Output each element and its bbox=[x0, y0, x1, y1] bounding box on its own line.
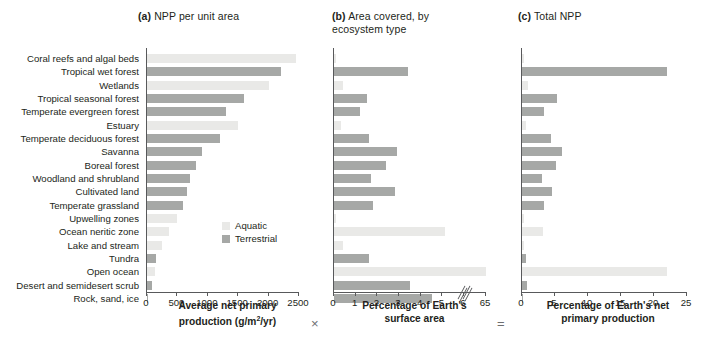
bar bbox=[334, 241, 343, 250]
bar bbox=[147, 94, 244, 103]
category-label: Savanna bbox=[101, 145, 139, 158]
legend-label-aquatic: Aquatic bbox=[235, 219, 267, 232]
x-tick bbox=[587, 292, 588, 296]
panel-b-axis-line1: Percentage of Earth's bbox=[362, 300, 466, 311]
panel-b-title-text: Area covered, by ecosystem type bbox=[332, 10, 429, 35]
panel-a-tag: (a) bbox=[138, 10, 151, 22]
category-label: Woodland and shrubland bbox=[32, 172, 139, 185]
bar bbox=[334, 107, 360, 116]
bar bbox=[522, 241, 524, 250]
bar bbox=[147, 267, 155, 276]
category-label: Rock, sand, ice bbox=[73, 292, 139, 305]
x-tick bbox=[441, 292, 442, 296]
bar bbox=[522, 254, 526, 263]
panel-c-tag: (c) bbox=[518, 10, 531, 22]
legend-label-terrestrial: Terrestrial bbox=[235, 232, 277, 245]
bar bbox=[522, 121, 526, 130]
equals-operator: = bbox=[497, 316, 505, 331]
bar bbox=[522, 147, 562, 156]
bar bbox=[334, 174, 371, 183]
npp-figure: (a) NPP per unit area (b) Area covered, … bbox=[0, 0, 715, 346]
category-label: Temperate grassland bbox=[49, 199, 139, 212]
x-tick bbox=[207, 292, 208, 296]
bar bbox=[147, 174, 190, 183]
panel-a-axis-line2: production (g/m bbox=[179, 316, 257, 327]
bar bbox=[147, 241, 162, 250]
bar bbox=[522, 107, 544, 116]
panel-c-plot: 0510152025 bbox=[521, 52, 686, 292]
x-tick bbox=[176, 292, 177, 296]
panel-c-axis-line1: Percentage of Earth's net bbox=[547, 300, 669, 311]
bar bbox=[334, 134, 369, 143]
panel-a-axis-title: Average net primary production (g/m2/yr) bbox=[150, 300, 305, 328]
category-label: Temperate evergreen forest bbox=[21, 105, 139, 118]
category-label: Temperate deciduous forest bbox=[21, 132, 139, 145]
bar bbox=[334, 214, 336, 223]
bar bbox=[147, 201, 183, 210]
bar bbox=[147, 227, 169, 236]
panel-b-plot: 012345665 bbox=[333, 52, 485, 292]
bar bbox=[522, 187, 552, 196]
panel-c-axis-title: Percentage of Earth's net primary produc… bbox=[523, 300, 693, 325]
bar bbox=[522, 134, 551, 143]
panel-c-x-axis bbox=[521, 292, 686, 293]
x-tick bbox=[355, 292, 356, 296]
bar bbox=[147, 81, 269, 90]
bar bbox=[334, 187, 395, 196]
x-tick bbox=[554, 292, 555, 296]
category-label: Open ocean bbox=[87, 265, 139, 278]
bar bbox=[522, 174, 542, 183]
x-tick bbox=[146, 292, 147, 296]
panel-b-axis-line2: surface area bbox=[384, 313, 444, 324]
x-tick bbox=[653, 292, 654, 296]
panel-b-title: (b) Area covered, by ecosystem type bbox=[332, 10, 482, 35]
category-label: Boreal forest bbox=[85, 159, 139, 172]
bar bbox=[334, 121, 341, 130]
panel-a-axis-line3: /yr) bbox=[260, 316, 276, 327]
panel-a-axis-line1: Average net primary bbox=[178, 300, 276, 311]
x-tick bbox=[485, 292, 486, 296]
category-label: Coral reefs and algal beds bbox=[27, 52, 139, 65]
legend-swatch-aquatic-icon bbox=[222, 222, 230, 230]
bar bbox=[334, 227, 445, 236]
bar bbox=[334, 161, 386, 170]
category-label: Estuary bbox=[106, 119, 139, 132]
legend-swatch-terrestrial-icon bbox=[222, 235, 230, 243]
x-tick bbox=[376, 292, 377, 296]
panel-a-plot: 05001000150020002500 bbox=[146, 52, 298, 292]
bar bbox=[522, 267, 667, 276]
category-label: Ocean neritic zone bbox=[59, 225, 139, 238]
bar bbox=[334, 267, 486, 276]
panel-c-title-text: Total NPP bbox=[534, 10, 582, 22]
x-tick bbox=[686, 292, 687, 296]
bar bbox=[147, 187, 187, 196]
bar bbox=[334, 201, 373, 210]
legend-item-terrestrial: Terrestrial bbox=[222, 232, 277, 245]
bar bbox=[334, 94, 367, 103]
x-tick bbox=[333, 292, 334, 296]
x-tick bbox=[521, 292, 522, 296]
category-label: Desert and semidesert scrub bbox=[16, 279, 139, 292]
panel-b-xaxis-break-icon bbox=[459, 286, 469, 299]
bar bbox=[522, 94, 557, 103]
panel-a-x-axis bbox=[146, 292, 298, 293]
bar bbox=[522, 54, 524, 63]
bar bbox=[522, 214, 524, 223]
category-label: Cultivated land bbox=[76, 185, 139, 198]
multiply-operator: × bbox=[311, 316, 319, 331]
x-tick bbox=[298, 292, 299, 296]
bar bbox=[334, 147, 397, 156]
x-tick bbox=[620, 292, 621, 296]
bar bbox=[334, 54, 336, 63]
category-label: Wetlands bbox=[99, 79, 139, 92]
panel-c-axis-line2: primary production bbox=[561, 313, 654, 324]
bar bbox=[147, 54, 296, 63]
category-label: Upwelling zones bbox=[69, 212, 139, 225]
panel-a-title: (a) NPP per unit area bbox=[138, 10, 313, 23]
bar bbox=[522, 201, 544, 210]
category-label-column: Coral reefs and algal bedsTropical wet f… bbox=[0, 52, 143, 292]
x-tick-label: 0 bbox=[143, 297, 148, 308]
bar bbox=[147, 161, 196, 170]
bar bbox=[522, 67, 667, 76]
bar bbox=[147, 147, 202, 156]
